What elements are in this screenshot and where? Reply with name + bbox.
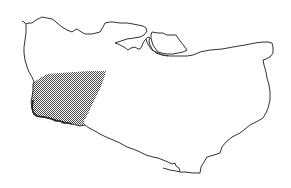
map-figure (0, 0, 291, 188)
highlighted-region (31, 71, 106, 126)
map-canvas (0, 0, 291, 188)
island-outline (151, 32, 187, 54)
coast-spur (163, 168, 180, 172)
